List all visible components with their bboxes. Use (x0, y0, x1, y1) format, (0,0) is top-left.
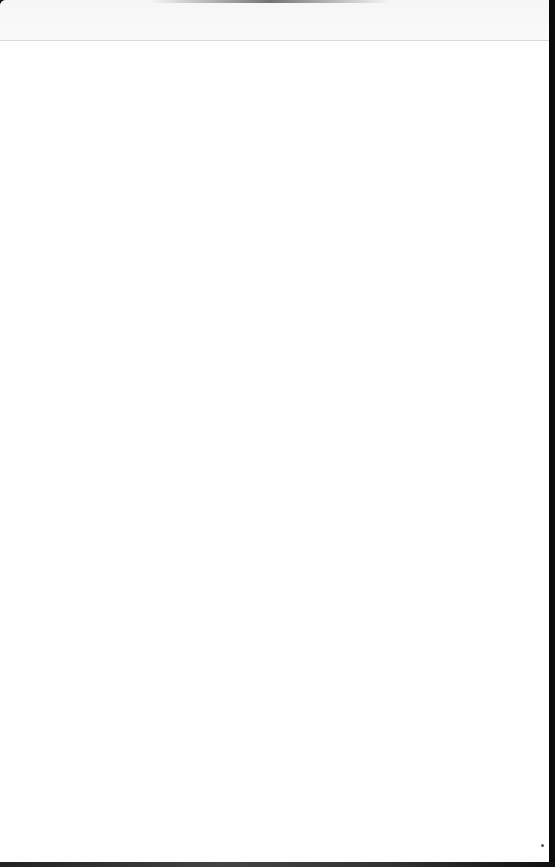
blank-content-area (0, 41, 549, 862)
bottom-edge (0, 862, 555, 867)
right-edge (549, 0, 555, 867)
top-shadow (150, 0, 390, 3)
header-strip (0, 0, 549, 40)
background-frame (0, 0, 555, 867)
blank-sheet (0, 0, 549, 862)
speck-dot (541, 844, 544, 847)
